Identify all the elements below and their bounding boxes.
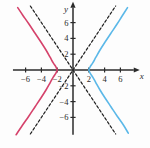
y-tick-label: 6	[64, 18, 68, 28]
x-tick-label: 6	[118, 74, 122, 84]
x-tick-label: −4	[37, 74, 47, 84]
y-tick-label: −2	[59, 81, 68, 91]
x-tick-label: −6	[21, 74, 30, 84]
x-tick-label: 4	[102, 74, 107, 84]
y-tick-label: 2	[64, 49, 68, 59]
y-tick-label: −4	[59, 97, 69, 107]
x-tick-label: 2	[87, 74, 91, 84]
y-tick-label: 4	[64, 33, 69, 43]
y-axis-label: y	[63, 4, 68, 14]
y-tick-label: −6	[59, 112, 68, 122]
x-axis-label: x	[139, 71, 144, 81]
hyperbola-plot: −6−4−2246642−2−4−6xy	[0, 0, 150, 148]
left-branch	[16, 8, 57, 135]
y-axis-arrow	[70, 2, 75, 8]
hyperbola-figure: −6−4−2246642−2−4−6xy	[0, 0, 150, 148]
